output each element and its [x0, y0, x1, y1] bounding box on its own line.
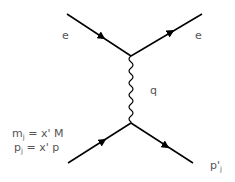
outgoing-electron-line [131, 14, 202, 56]
incoming-parton-line [68, 123, 131, 163]
photon-propagator [129, 56, 133, 123]
label-outgoing-electron: e [195, 30, 202, 42]
incoming-electron-line [67, 14, 131, 56]
label-propagator-q: q [150, 85, 157, 97]
label-momentum-relation: pj = x' p [14, 142, 59, 157]
label-incoming-electron: e [62, 30, 69, 42]
label-outgoing-parton: p'j [210, 160, 222, 175]
outgoing-parton-line [131, 123, 193, 163]
